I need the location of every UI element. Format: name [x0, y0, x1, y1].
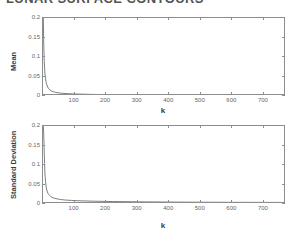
- y-tick-label: 0.05: [28, 181, 40, 187]
- x-tick: [200, 200, 201, 203]
- y-tick: [282, 56, 285, 57]
- y-tick: [282, 17, 285, 18]
- x-tick-label: 500: [195, 205, 205, 211]
- x-tick: [168, 92, 169, 95]
- x-tick-label: 700: [258, 205, 268, 211]
- y-tick: [282, 145, 285, 146]
- x-tick: [200, 92, 201, 95]
- y-tick-label: 0.1: [32, 53, 40, 59]
- y-tick: [282, 203, 285, 204]
- y-tick: [282, 37, 285, 38]
- x-tick: [137, 125, 138, 128]
- y-tick-label: 0.2: [32, 14, 40, 20]
- x-tick-label: 100: [69, 205, 79, 211]
- x-tick-label: 500: [195, 97, 205, 103]
- y-tick: [42, 76, 45, 77]
- x-axis-title-standard-deviation: k: [161, 221, 165, 230]
- x-tick: [263, 125, 264, 128]
- plot-area-mean: [42, 17, 285, 95]
- y-tick: [42, 164, 45, 165]
- x-tick: [74, 125, 75, 128]
- y-tick-label: 0: [37, 92, 40, 98]
- x-tick: [263, 200, 264, 203]
- x-tick: [137, 17, 138, 20]
- y-tick: [282, 95, 285, 96]
- y-axis-title-standard-deviation: Standard Deviation: [9, 131, 18, 199]
- x-tick-label: 600: [226, 97, 236, 103]
- x-tick: [231, 17, 232, 20]
- x-tick-label: 100: [69, 97, 79, 103]
- x-tick: [168, 125, 169, 128]
- x-tick: [200, 125, 201, 128]
- x-tick: [231, 200, 232, 203]
- x-tick: [74, 200, 75, 203]
- figure-page: LUNAR SURFACE CONTOURS 10020030040050060…: [0, 0, 296, 244]
- x-tick-label: 400: [163, 97, 173, 103]
- y-tick: [42, 184, 45, 185]
- curve-standard-deviation: [43, 126, 285, 203]
- y-tick: [42, 17, 45, 18]
- curve-mean: [43, 18, 285, 95]
- chart-panel-standard-deviation: 100200300400500600700 00.050.10.150.2 St…: [0, 117, 296, 244]
- x-tick-label: 400: [163, 205, 173, 211]
- y-tick: [282, 164, 285, 165]
- y-tick: [282, 184, 285, 185]
- x-tick: [231, 125, 232, 128]
- y-tick: [42, 145, 45, 146]
- x-tick: [137, 200, 138, 203]
- y-axis-title-mean: Mean: [9, 52, 18, 71]
- y-tick-label: 0.1: [32, 161, 40, 167]
- y-tick: [42, 95, 45, 96]
- x-tick-label: 200: [100, 205, 110, 211]
- x-tick: [263, 92, 264, 95]
- y-tick: [42, 37, 45, 38]
- y-tick-label: 0.15: [28, 142, 40, 148]
- y-tick-label: 0.15: [28, 34, 40, 40]
- y-tick: [282, 76, 285, 77]
- plot-area-standard-deviation: [42, 125, 285, 203]
- x-tick: [105, 200, 106, 203]
- x-tick-label: 300: [132, 205, 142, 211]
- x-axis-title-mean: k: [161, 106, 165, 115]
- y-tick: [42, 203, 45, 204]
- y-tick: [282, 125, 285, 126]
- page-title: LUNAR SURFACE CONTOURS: [6, 0, 204, 6]
- page-title-strip: LUNAR SURFACE CONTOURS: [0, 0, 296, 9]
- x-tick: [168, 17, 169, 20]
- x-tick: [200, 17, 201, 20]
- y-tick: [42, 125, 45, 126]
- x-tick: [105, 17, 106, 20]
- x-tick: [168, 200, 169, 203]
- y-tick-label: 0: [37, 200, 40, 206]
- x-tick: [137, 92, 138, 95]
- y-tick: [42, 56, 45, 57]
- y-tick-label: 0.2: [32, 122, 40, 128]
- y-tick-label: 0.05: [28, 73, 40, 79]
- x-tick: [105, 125, 106, 128]
- x-tick: [263, 17, 264, 20]
- x-tick: [74, 17, 75, 20]
- x-tick-label: 600: [226, 205, 236, 211]
- x-tick-label: 300: [132, 97, 142, 103]
- x-tick-label: 700: [258, 97, 268, 103]
- x-tick: [105, 92, 106, 95]
- x-tick: [74, 92, 75, 95]
- x-tick-label: 200: [100, 97, 110, 103]
- x-tick: [231, 92, 232, 95]
- chart-panel-mean: 100200300400500600700 00.050.10.150.2 Me…: [0, 9, 296, 117]
